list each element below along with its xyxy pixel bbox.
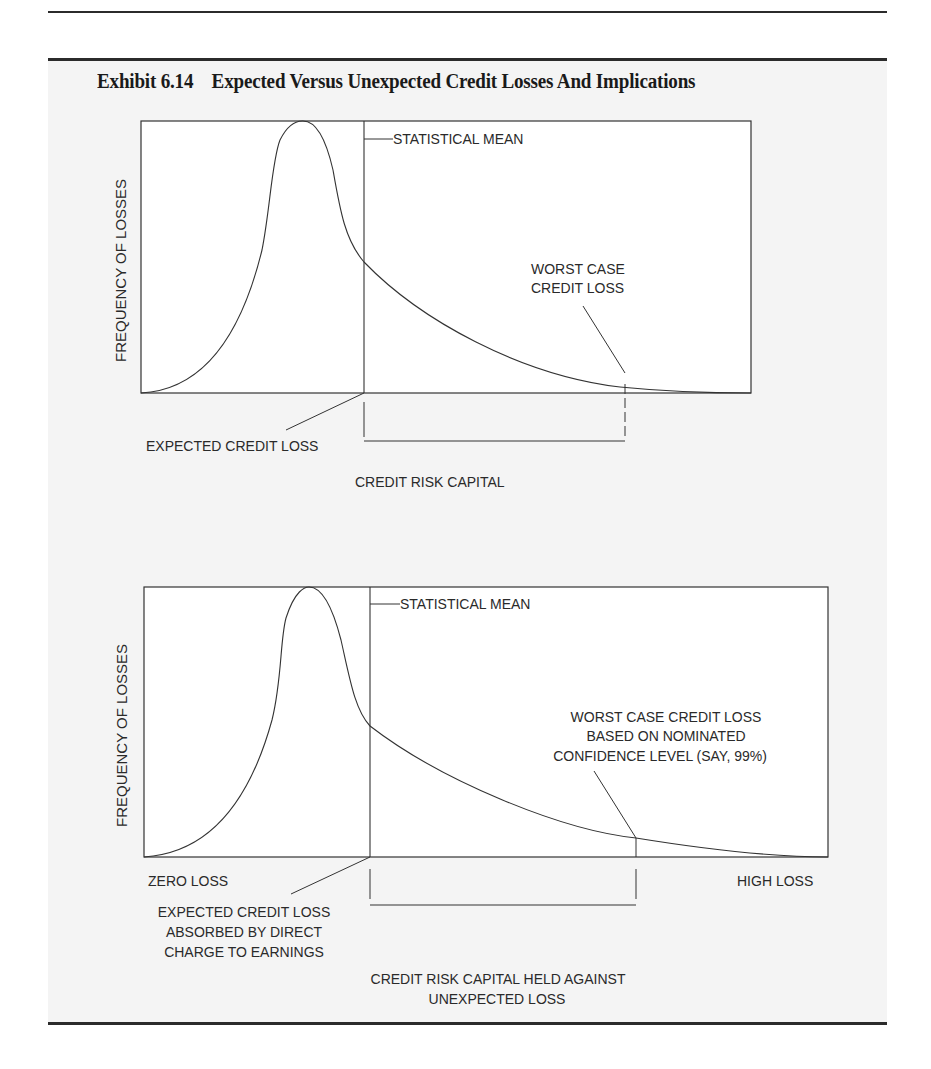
bottom-expected-leader: [291, 857, 370, 894]
bottom-y-axis-label: FREQUENCY OF LOSSES: [113, 644, 130, 827]
top-expected-leader: [286, 393, 364, 430]
exhibit-bottom-rule: [48, 1022, 887, 1025]
high-loss-label: HIGH LOSS: [737, 873, 813, 889]
top-chart: STATISTICAL MEAN FREQUENCY OF LOSSES WOR…: [112, 121, 751, 490]
bottom-worst-case-label-3: CONFIDENCE LEVEL (SAY, 99%): [553, 748, 767, 764]
top-worst-case-label-2: CREDIT LOSS: [531, 280, 624, 296]
exhibit-charts: STATISTICAL MEAN FREQUENCY OF LOSSES WOR…: [0, 0, 931, 1069]
bottom-chart: STATISTICAL MEAN FREQUENCY OF LOSSES WOR…: [113, 587, 828, 1007]
zero-loss-label: ZERO LOSS: [148, 873, 228, 889]
top-y-axis-label: FREQUENCY OF LOSSES: [112, 179, 129, 362]
top-expected-loss-label: EXPECTED CREDIT LOSS: [146, 438, 318, 454]
bottom-capital-label-1: CREDIT RISK CAPITAL HELD AGAINST: [371, 971, 626, 987]
top-mean-label: STATISTICAL MEAN: [393, 131, 523, 147]
top-worst-case-label-1: WORST CASE: [531, 261, 625, 277]
bottom-worst-case-label-2: BASED ON NOMINATED: [586, 728, 745, 744]
bottom-capital-label-2: UNEXPECTED LOSS: [429, 991, 566, 1007]
top-capital-label: CREDIT RISK CAPITAL: [355, 474, 505, 490]
bottom-expected-label-2: ABSORBED BY DIRECT: [166, 924, 323, 940]
top-chart-frame: [141, 121, 751, 393]
bottom-mean-label: STATISTICAL MEAN: [400, 596, 530, 612]
bottom-expected-label-3: CHARGE TO EARNINGS: [164, 944, 324, 960]
bottom-worst-case-label-1: WORST CASE CREDIT LOSS: [571, 709, 762, 725]
bottom-expected-label-1: EXPECTED CREDIT LOSS: [158, 904, 330, 920]
